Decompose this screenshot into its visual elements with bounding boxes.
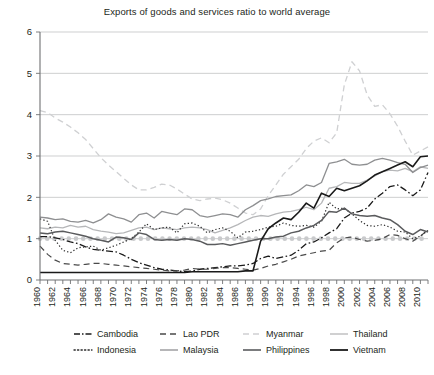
x-tick-label-2010: 2010 — [412, 287, 422, 307]
x-tick-label-2006: 2006 — [382, 287, 392, 307]
series-line-cambodia — [40, 173, 428, 272]
y-tick-label-4: 4 — [27, 109, 32, 120]
legend-label-malaysia: Malaysia — [183, 345, 219, 355]
x-tick-label-1986: 1986 — [230, 287, 240, 307]
reference-band-marker — [225, 236, 230, 241]
legend-label-philippines: Philippines — [266, 345, 310, 355]
x-tick-label-1988: 1988 — [245, 287, 255, 307]
gridlines — [40, 32, 428, 239]
legend-label-indonesia: Indonesia — [97, 345, 136, 355]
legend-label-thailand: Thailand — [353, 329, 388, 339]
legend-item-indonesia[interactable]: Indonesia — [74, 345, 136, 355]
reference-band-marker — [203, 236, 208, 241]
reference-band-marker — [218, 236, 223, 241]
legend-label-lao-pdr: Lao PDR — [183, 329, 220, 339]
y-tick-label-0: 0 — [27, 274, 32, 285]
reference-band-marker — [333, 236, 338, 241]
legend-item-vietnam[interactable]: Vietnam — [330, 345, 386, 355]
y-tick-label-5: 5 — [27, 68, 32, 79]
x-tick-label-1984: 1984 — [215, 287, 225, 307]
reference-band-marker — [419, 236, 424, 241]
data-series-group — [40, 62, 428, 273]
reference-band-marker — [139, 236, 144, 241]
y-tick-label-2: 2 — [27, 192, 32, 203]
series-line-myanmar — [40, 62, 428, 215]
series-line-vietnam — [40, 156, 428, 273]
x-tick-label-1994: 1994 — [291, 287, 301, 307]
x-axis-tick-labels: 1960196219641966196819701972197419761978… — [32, 287, 422, 307]
y-axis-tick-labels: 0123456 — [27, 26, 32, 285]
legend-label-myanmar: Myanmar — [266, 329, 304, 339]
x-tick-label-1998: 1998 — [321, 287, 331, 307]
x-tick-label-1974: 1974 — [139, 287, 149, 307]
reference-band-marker — [391, 236, 396, 241]
x-tick-label-1990: 1990 — [260, 287, 270, 307]
chart-plot-area: 0123456 19601962196419661968197019721974… — [0, 0, 434, 375]
reference-band-marker — [311, 236, 316, 241]
reference-band-marker — [290, 236, 295, 241]
legend-item-cambodia[interactable]: Cambodia — [74, 329, 138, 339]
x-tick-label-1982: 1982 — [199, 287, 209, 307]
chart-container: Exports of goods and services ratio to w… — [0, 0, 434, 375]
x-tick-label-1978: 1978 — [169, 287, 179, 307]
x-tick-label-1960: 1960 — [32, 287, 42, 307]
reference-band-marker — [81, 236, 86, 241]
reference-band-marker — [297, 236, 302, 241]
reference-band-marker — [74, 236, 79, 241]
reference-band-marker — [326, 236, 331, 241]
legend-item-thailand[interactable]: Thailand — [330, 329, 388, 339]
x-tick-label-2008: 2008 — [397, 287, 407, 307]
legend-label-vietnam: Vietnam — [353, 345, 386, 355]
x-tick-label-2004: 2004 — [367, 287, 377, 307]
legend-item-lao-pdr[interactable]: Lao PDR — [160, 329, 220, 339]
x-tick-label-1996: 1996 — [306, 287, 316, 307]
y-tick-label-6: 6 — [27, 26, 32, 37]
reference-band-marker — [239, 236, 244, 241]
series-line-thailand — [40, 167, 428, 234]
reference-band-marker — [232, 236, 237, 241]
chart-legend: CambodiaLao PDRMyanmarThailandIndonesiaM… — [74, 329, 388, 355]
x-tick-label-2002: 2002 — [352, 287, 362, 307]
x-tick-label-1980: 1980 — [184, 287, 194, 307]
x-tick-label-1968: 1968 — [93, 287, 103, 307]
x-tick-label-1976: 1976 — [154, 287, 164, 307]
legend-item-malaysia[interactable]: Malaysia — [160, 345, 219, 355]
legend-item-myanmar[interactable]: Myanmar — [243, 329, 304, 339]
series-line-malaysia — [40, 158, 428, 222]
x-tick-label-1962: 1962 — [47, 287, 57, 307]
y-tick-label-1: 1 — [27, 233, 32, 244]
x-tick-label-1966: 1966 — [78, 287, 88, 307]
x-tick-label-1992: 1992 — [275, 287, 285, 307]
reference-band-marker — [398, 236, 403, 241]
x-axis — [40, 280, 428, 284]
reference-band-marker — [211, 236, 216, 241]
reference-band-marker — [304, 236, 309, 241]
x-tick-label-1970: 1970 — [108, 287, 118, 307]
x-tick-label-2000: 2000 — [336, 287, 346, 307]
y-tick-label-3: 3 — [27, 150, 32, 161]
y-axis — [36, 32, 40, 280]
x-tick-label-1964: 1964 — [62, 287, 72, 307]
reference-band-marker — [283, 236, 288, 241]
legend-label-cambodia: Cambodia — [97, 329, 138, 339]
legend-item-philippines[interactable]: Philippines — [243, 345, 310, 355]
x-tick-label-1972: 1972 — [123, 287, 133, 307]
